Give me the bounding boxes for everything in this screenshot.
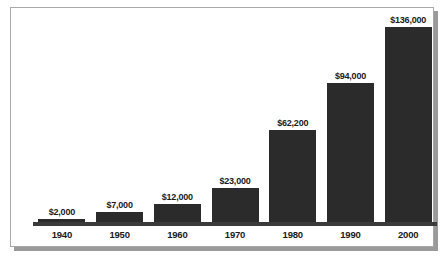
bar-value-label-1940: $2,000: [49, 208, 75, 217]
bar-group-2000: $136,000: [379, 16, 437, 222]
bar-value-label-2000: $136,000: [390, 16, 426, 25]
bar-value-label-1990: $94,000: [335, 72, 366, 81]
plot-area: $2,000 $7,000 $12,000 $23,000 $62,200: [23, 16, 443, 254]
x-tick-label-1950: 1950: [91, 228, 149, 241]
bar-value-label-1970: $23,000: [219, 177, 250, 186]
bar-group-1960: $12,000: [148, 16, 206, 222]
bar-group-1970: $23,000: [206, 16, 264, 222]
plot-frame: $2,000 $7,000 $12,000 $23,000 $62,200: [10, 7, 434, 247]
bar-1970: [212, 188, 259, 222]
bars-container: $2,000 $7,000 $12,000 $23,000 $62,200: [33, 16, 437, 222]
x-axis-baseline: [33, 222, 437, 226]
bar-1980: [269, 130, 316, 222]
bar-1960: [154, 204, 201, 222]
bar-group-1990: $94,000: [322, 16, 380, 222]
x-tick-label-2000: 2000: [379, 228, 437, 241]
bar-value-label-1950: $7,000: [106, 201, 132, 210]
x-axis-tick-labels: 1940 1950 1960 1970 1980 1990 2000: [33, 228, 437, 248]
bar-chart-figure: $2,000 $7,000 $12,000 $23,000 $62,200: [0, 0, 447, 268]
bar-group-1940: $2,000: [33, 16, 91, 222]
x-tick-label-1980: 1980: [264, 228, 322, 241]
bar-group-1980: $62,200: [264, 16, 322, 222]
bar-1990: [327, 83, 374, 222]
bar-group-1950: $7,000: [91, 16, 149, 222]
bar-2000: [385, 27, 432, 222]
x-tick-label-1970: 1970: [206, 228, 264, 241]
x-tick-label-1940: 1940: [33, 228, 91, 241]
bar-1940: [38, 219, 85, 222]
bar-value-label-1960: $12,000: [162, 193, 193, 202]
bar-1950: [96, 212, 143, 222]
x-tick-label-1960: 1960: [148, 228, 206, 241]
x-tick-label-1990: 1990: [322, 228, 380, 241]
bar-value-label-1980: $62,200: [277, 119, 308, 128]
